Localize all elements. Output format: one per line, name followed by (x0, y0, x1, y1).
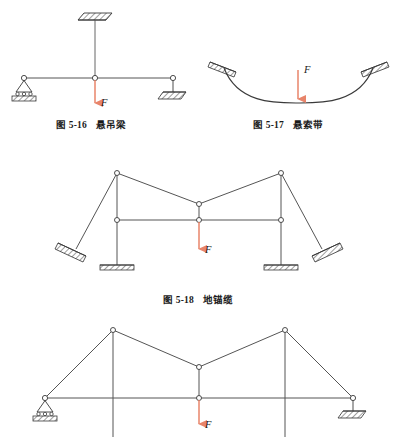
load-label-F: F (204, 244, 212, 255)
footing-right-icon (264, 265, 298, 270)
joint-node (197, 365, 202, 370)
suspension-cable (117, 173, 281, 204)
link-support-icon (338, 395, 366, 418)
figure-5-16-graphic: F (12, 13, 186, 108)
stay-cable-left (45, 330, 113, 398)
link-support-icon (158, 75, 186, 99)
joint-node (279, 218, 284, 223)
figure-caption-5-18: 图 5-18地锚缆 (163, 292, 234, 306)
ceiling-support-icon (78, 13, 112, 20)
figure-5-18-graphic: F (55, 171, 343, 271)
ground-anchor-left-icon (55, 243, 86, 262)
guy-cable-left (76, 173, 117, 249)
load-label-F: F (303, 64, 311, 75)
joint-node (197, 396, 202, 401)
joint-node (111, 328, 116, 333)
joint-node (283, 328, 288, 333)
joint-node (115, 171, 120, 176)
inclined-anchor-right-icon (361, 62, 389, 77)
figure-title: 地锚缆 (203, 295, 234, 305)
figure-number: 图 5-17 (253, 120, 284, 130)
ground-anchor-right-icon (312, 243, 343, 262)
load-label-F: F (100, 97, 108, 108)
figure-bottom-graphic: F (33, 328, 366, 437)
guy-cable-right (281, 173, 322, 249)
figure-title: 悬吊梁 (96, 120, 127, 130)
figure-plate: F F (0, 0, 397, 437)
figure-number: 图 5-16 (56, 120, 87, 130)
inclined-anchor-left-icon (208, 62, 236, 77)
diagrams-canvas: F F (0, 0, 397, 437)
joint-node (197, 202, 202, 207)
load-label-F: F (204, 419, 212, 430)
figure-number: 图 5-18 (163, 295, 194, 305)
joint-node (197, 218, 202, 223)
joint-node (279, 171, 284, 176)
figure-title: 悬索带 (293, 120, 324, 130)
joint-node (92, 75, 97, 80)
suspension-cable (113, 330, 285, 367)
figure-5-17-graphic: F (208, 62, 389, 103)
joint-node (115, 218, 120, 223)
figure-caption-5-17: 图 5-17悬索带 (253, 117, 324, 131)
stay-cable-right (285, 330, 353, 398)
pinned-support-icon (33, 395, 57, 421)
figure-caption-5-16: 图 5-16悬吊梁 (56, 117, 127, 131)
footing-left-icon (100, 265, 134, 270)
pinned-support-icon (12, 75, 36, 101)
